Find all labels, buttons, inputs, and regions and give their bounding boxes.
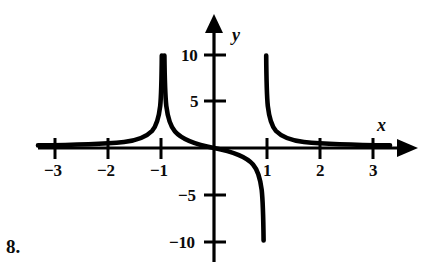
x-tick-label--3: −3 bbox=[44, 162, 62, 179]
y-tick-label--5: −5 bbox=[178, 187, 196, 204]
x-tick-label-3: 3 bbox=[369, 162, 377, 179]
y-axis-label: y bbox=[232, 26, 240, 44]
y-tick-label--10: −10 bbox=[169, 234, 195, 251]
problem-number-label: 8. bbox=[6, 237, 20, 256]
graph-figure: −3 −2 −1 1 2 3 10 5 −5 −10 x y 8. bbox=[0, 0, 425, 277]
x-tick-label-1: 1 bbox=[263, 162, 271, 179]
y-tick-label-10: 10 bbox=[181, 47, 197, 64]
function-plot bbox=[0, 0, 425, 277]
y-axis-arrowhead bbox=[205, 14, 223, 33]
x-tick-label--2: −2 bbox=[97, 162, 115, 179]
y-tick-label-5: 5 bbox=[190, 93, 198, 110]
x-axis-arrowhead bbox=[397, 139, 418, 157]
curve-branch-left bbox=[38, 56, 162, 146]
curve-branch-right bbox=[266, 56, 390, 146]
x-tick-label-2: 2 bbox=[316, 162, 324, 179]
x-tick-label--1: −1 bbox=[150, 162, 168, 179]
x-axis-label: x bbox=[377, 116, 386, 134]
